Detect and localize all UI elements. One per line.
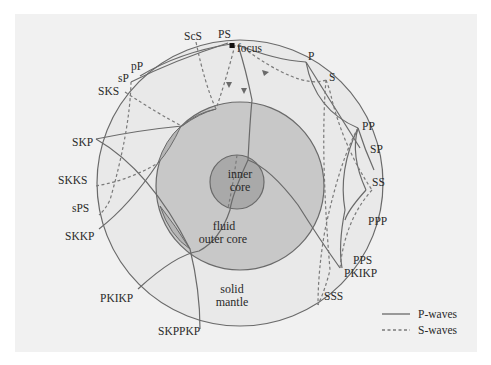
legend-p-waves: P-waves	[418, 308, 457, 320]
earth-diagram: focus inner core fluid outer core solid …	[0, 0, 491, 365]
label-SKS: SKS	[98, 85, 119, 97]
focus-marker-icon	[230, 43, 235, 48]
label-PKIKP-left: PKIKP	[100, 292, 133, 304]
label-SSS: SSS	[324, 290, 343, 302]
label-P: P	[308, 50, 314, 62]
label-PKIKP-right: PKIKP	[344, 267, 377, 279]
label-ScS: ScS	[184, 30, 202, 42]
label-SKKP: SKKP	[65, 230, 94, 242]
label-SKPPKP: SKPPKP	[158, 325, 200, 337]
label-SS: SS	[372, 176, 385, 188]
mantle-label-2: mantle	[216, 295, 249, 309]
legend-s-waves: S-waves	[418, 324, 457, 336]
inner-core-label-2: core	[230, 180, 251, 194]
label-sP: sP	[118, 72, 129, 84]
focus-label: focus	[237, 42, 262, 54]
label-SKP: SKP	[72, 136, 93, 148]
label-PPP: PPP	[368, 215, 387, 227]
label-sPS: sPS	[72, 202, 89, 214]
label-pP: pP	[131, 60, 143, 73]
label-SP: SP	[370, 143, 383, 155]
label-PS: PS	[218, 28, 231, 40]
outer-core-label-1: fluid	[213, 219, 236, 233]
mantle-label-1: solid	[220, 282, 243, 296]
outer-core-label-2: outer core	[199, 232, 247, 246]
label-PP: PP	[362, 120, 375, 132]
inner-core-label-1: inner	[228, 167, 253, 181]
label-PPS: PPS	[353, 254, 372, 266]
label-S: S	[329, 71, 335, 83]
legend: P-waves S-waves	[382, 308, 457, 336]
label-SKKS: SKKS	[58, 174, 87, 186]
